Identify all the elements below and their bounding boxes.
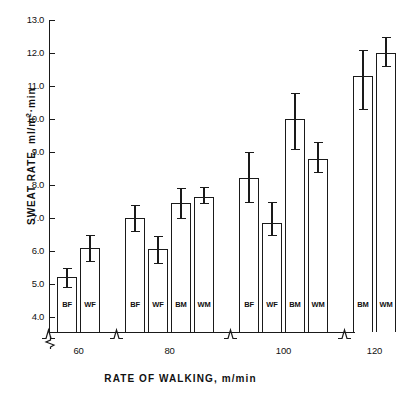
error-bar-line (385, 37, 386, 67)
bar[interactable] (262, 223, 282, 332)
bar[interactable] (194, 197, 214, 332)
bar-series-label: BF (239, 300, 259, 309)
x-axis-break-icon (110, 326, 123, 339)
error-bar-cap (245, 202, 254, 203)
y-tick-mark (50, 317, 55, 318)
error-bar-line (180, 188, 181, 218)
y-tick-mark (50, 218, 55, 219)
error-bar-line (203, 187, 204, 204)
bar-series-label: WM (194, 300, 214, 309)
error-bar-cap (314, 172, 323, 173)
error-bar-line (66, 268, 67, 288)
error-bar-cap (200, 187, 209, 188)
y-tick-label: 6.0 (14, 246, 44, 256)
error-bar-cap (177, 218, 186, 219)
error-bar-cap (154, 236, 163, 237)
x-group-label: 100 (264, 345, 304, 356)
y-tick-mark (50, 185, 55, 186)
bar[interactable] (353, 76, 373, 332)
y-tick-mark (50, 86, 55, 87)
error-bar-cap (382, 37, 391, 38)
bar[interactable] (125, 218, 145, 332)
bar-series-label: BM (353, 300, 373, 309)
bar-series-label: WM (376, 300, 396, 309)
y-axis-line (49, 20, 50, 333)
error-bar-line (134, 205, 135, 231)
error-bar-cap (382, 66, 391, 67)
bar-series-label: BF (125, 300, 145, 309)
error-bar-cap (86, 235, 95, 236)
x-group-label: 60 (59, 345, 99, 356)
bar-series-label: WF (80, 300, 100, 309)
y-tick-label: 5.0 (14, 279, 44, 289)
x-group-label: 120 (355, 345, 395, 356)
y-tick-mark (50, 119, 55, 120)
x-axis-break-icon (42, 326, 55, 339)
error-bar-cap (359, 50, 368, 51)
error-bar-line (317, 142, 318, 172)
x-axis-break-icon (224, 326, 237, 339)
bar-series-label: BM (171, 300, 191, 309)
bar-series-label: WF (262, 300, 282, 309)
y-tick-label: 13.0 (14, 15, 44, 25)
error-bar-cap (359, 109, 368, 110)
y-axis-title-post: ·min (26, 87, 37, 112)
error-bar-line (157, 236, 158, 262)
error-bar-cap (131, 205, 140, 206)
y-axis-title-pre: SWEAT RATE, ml/m (26, 117, 37, 225)
error-bar-line (248, 152, 249, 202)
error-bar-cap (291, 93, 300, 94)
bar-series-label: WF (148, 300, 168, 309)
y-tick-mark (50, 284, 55, 285)
error-bar-cap (314, 142, 323, 143)
error-bar-line (89, 235, 90, 261)
error-bar-cap (154, 263, 163, 264)
bar[interactable] (171, 203, 191, 332)
error-bar-cap (200, 203, 209, 204)
bar-series-label: BM (285, 300, 305, 309)
error-bar-cap (86, 261, 95, 262)
y-tick-mark (50, 53, 55, 54)
y-tick-mark (50, 251, 55, 252)
bar[interactable] (376, 53, 396, 332)
error-bar-cap (131, 231, 140, 232)
error-bar-cap (268, 235, 277, 236)
y-tick-label: 12.0 (14, 48, 44, 58)
error-bar-cap (177, 188, 186, 189)
y-tick-label: 11.0 (14, 81, 44, 91)
y-tick-mark (50, 20, 55, 21)
error-bar-line (362, 50, 363, 109)
x-axis-line (49, 332, 355, 333)
x-axis-break-icon (338, 326, 351, 339)
error-bar-cap (63, 268, 72, 269)
error-bar-cap (291, 149, 300, 150)
error-bar-cap (245, 152, 254, 153)
y-tick-label: 9.0 (14, 147, 44, 157)
y-tick-mark (50, 152, 55, 153)
y-tick-label: 8.0 (14, 180, 44, 190)
error-bar-cap (268, 202, 277, 203)
y-tick-label: 10.0 (14, 114, 44, 124)
error-bar-line (294, 93, 295, 149)
x-axis-title: RATE OF WALKING, m/min (0, 373, 361, 384)
bar-series-label: BF (57, 300, 77, 309)
x-group-label: 80 (150, 345, 190, 356)
y-tick-label: 4.0 (14, 312, 44, 322)
error-bar-cap (63, 287, 72, 288)
y-tick-label: 7.0 (14, 213, 44, 223)
error-bar-line (271, 202, 272, 235)
bar-series-label: WM (308, 300, 328, 309)
